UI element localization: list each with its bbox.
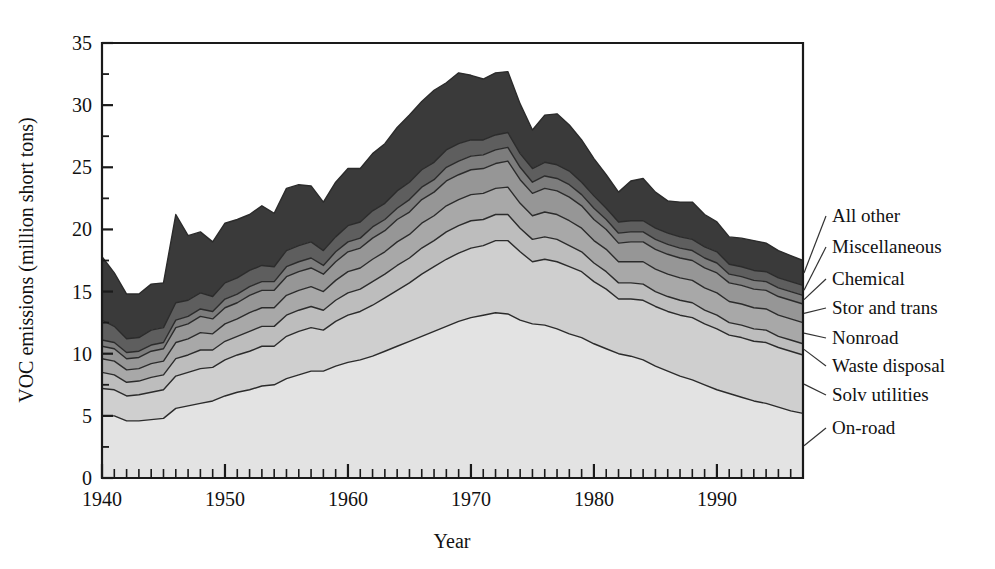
legend-label-all-other: All other [832, 205, 901, 226]
x-tick-label: 1950 [205, 488, 245, 510]
legend-label-solv-utilities: Solv utilities [832, 384, 929, 405]
legend-label-on-road: On-road [832, 417, 896, 438]
x-tick-label: 1980 [574, 488, 614, 510]
legend-leader-line [804, 308, 826, 313]
legend-leader-line [804, 247, 826, 290]
legend-leader-line [804, 349, 826, 366]
legend-label-miscellaneous: Miscellaneous [832, 236, 942, 257]
legend-leader-line [804, 216, 826, 273]
y-tick-label: 10 [72, 343, 92, 365]
x-tick-label: 1940 [82, 488, 122, 510]
legend-label-nonroad: Nonroad [832, 327, 899, 348]
y-tick-label: 20 [72, 218, 92, 240]
x-tick-label: 1960 [328, 488, 368, 510]
legend: All otherMiscellaneousChemicalStor and t… [804, 205, 945, 446]
y-axis-title: VOC emissions (million short tons) [15, 117, 38, 403]
y-tick-label: 0 [82, 467, 92, 489]
y-tick-label: 5 [82, 405, 92, 427]
y-tick-label: 15 [72, 281, 92, 303]
legend-label-stor-and-trans: Stor and trans [832, 297, 938, 318]
voc-emissions-figure: 05101520253035 194019501960197019801990 … [0, 0, 995, 569]
legend-leader-line [804, 279, 826, 300]
legend-leader-line [804, 428, 826, 446]
stacked-areas [102, 72, 803, 478]
y-tick-label: 35 [72, 32, 92, 54]
stacked-area-chart: 05101520253035 194019501960197019801990 … [0, 0, 995, 569]
legend-leader-line [804, 384, 826, 395]
legend-leader-line [804, 333, 826, 338]
x-axis-tick-labels: 194019501960197019801990 [82, 488, 737, 510]
x-axis-title: Year [434, 530, 471, 552]
x-tick-label: 1970 [451, 488, 491, 510]
x-tick-label: 1990 [697, 488, 737, 510]
y-axis-tick-labels: 05101520253035 [72, 32, 92, 489]
legend-label-chemical: Chemical [832, 268, 905, 289]
y-tick-label: 30 [72, 94, 92, 116]
y-tick-label: 25 [72, 156, 92, 178]
legend-label-waste-disposal: Waste disposal [832, 355, 945, 376]
